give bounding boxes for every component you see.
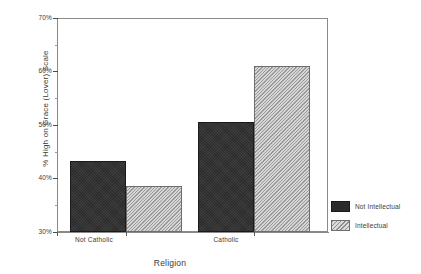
legend-swatch-light-chevron-icon [331, 220, 350, 231]
legend-swatch-dark-solid-icon [331, 201, 350, 212]
x-category-label-catholic: Catholic [196, 236, 256, 243]
bars-layer [57, 18, 328, 232]
y-tick-label-60: 60% [16, 67, 52, 74]
bar-catholic-not-intellectual [198, 122, 254, 232]
x-axis-line [57, 232, 329, 233]
x-tick-start [57, 232, 58, 236]
x-tick-between-groups [126, 232, 127, 236]
bar-not-catholic-intellectual [126, 186, 182, 232]
bar-catholic-intellectual [254, 66, 310, 232]
chart-legend: Not Intellectual Intellectual [331, 200, 421, 238]
x-category-label-not-catholic: Not Catholic [64, 236, 124, 243]
y-tick-label-50: 50% [16, 121, 52, 128]
legend-item-intellectual: Intellectual [331, 219, 421, 232]
bar-not-catholic-not-intellectual [70, 161, 126, 232]
y-tick-label-30: 30% [16, 228, 52, 235]
y-axis-tick-labels: 70% 60% 50% 40% 30% [8, 0, 52, 274]
y-tick-label-70: 70% [16, 14, 52, 21]
legend-item-not-intellectual: Not Intellectual [331, 200, 421, 213]
chart-screenshot: % High on Grace (Lover) Scale 70% 60% 50… [0, 0, 421, 274]
x-axis-title: Religion [0, 258, 340, 268]
legend-label-not-intellectual: Not Intellectual [355, 203, 400, 210]
legend-label-intellectual: Intellectual [355, 222, 388, 229]
y-tick-label-40: 40% [16, 174, 52, 181]
